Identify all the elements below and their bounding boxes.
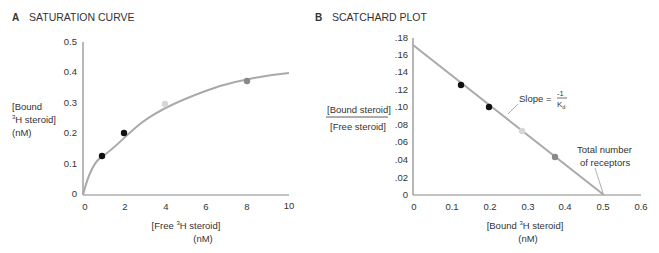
svg-text:[Bound: [Bound xyxy=(12,101,42,112)
saturation-x-ticks: 0 2 4 6 8 10 xyxy=(82,200,294,212)
svg-text:0.3: 0.3 xyxy=(64,97,77,108)
scatchard-point-2 xyxy=(486,104,492,110)
svg-text:[Bound steroid]: [Bound steroid] xyxy=(327,104,391,115)
svg-text:of receptors: of receptors xyxy=(580,157,630,168)
scatchard-y-label: [Bound steroid] [Free steroid] xyxy=(326,104,391,132)
svg-text:-1: -1 xyxy=(557,89,564,98)
saturation-point-4 xyxy=(244,78,250,84)
svg-text:0.4: 0.4 xyxy=(558,201,571,212)
svg-text:0.4: 0.4 xyxy=(64,66,77,77)
panel-a-title: SATURATION CURVE xyxy=(29,11,135,23)
svg-text:0.2: 0.2 xyxy=(64,127,77,138)
panel-b-title: SCATCHARD PLOT xyxy=(332,11,427,23)
svg-text:.14: .14 xyxy=(395,66,408,77)
svg-text:(nM): (nM) xyxy=(193,233,213,244)
svg-text:10: 10 xyxy=(284,200,295,211)
svg-text:.18: .18 xyxy=(395,32,408,43)
scatchard-y-ticks: 0 .02 .04 .06 .08 .10 .12 .14 .16 .18 xyxy=(395,32,408,200)
panel-a-letter: A xyxy=(12,12,19,23)
svg-text:[Bound 3H steroid]: [Bound 3H steroid] xyxy=(487,220,564,231)
svg-text:Kd: Kd xyxy=(557,100,565,110)
panel-b-letter: B xyxy=(315,12,322,23)
svg-text:.06: .06 xyxy=(395,136,408,147)
svg-text:0.1: 0.1 xyxy=(64,158,77,169)
svg-text:.02: .02 xyxy=(395,172,408,183)
scatchard-point-1 xyxy=(458,82,464,88)
slope-annotation: Slope = -1 Kd xyxy=(508,89,567,114)
svg-text:0: 0 xyxy=(411,201,416,212)
scatchard-x-ticks: 0 0.1 0.2 0.3 0.4 0.5 0.6 xyxy=(411,201,647,212)
svg-text:.12: .12 xyxy=(395,84,408,95)
svg-text:0.2: 0.2 xyxy=(483,201,496,212)
saturation-point-1 xyxy=(99,153,105,159)
svg-text:Slope =: Slope = xyxy=(519,93,552,104)
scatchard-point-3 xyxy=(519,128,525,134)
svg-text:0.6: 0.6 xyxy=(634,201,647,212)
svg-text:2: 2 xyxy=(122,201,127,212)
svg-text:8: 8 xyxy=(244,201,249,212)
saturation-y-label: [Bound 3H steroid] (nM) xyxy=(12,101,56,138)
svg-text:Total number: Total number xyxy=(577,144,632,155)
svg-text:4: 4 xyxy=(163,201,168,212)
svg-text:.04: .04 xyxy=(395,154,408,165)
total-receptors-annotation: Total number of receptors xyxy=(577,144,632,193)
svg-text:3H steroid]: 3H steroid] xyxy=(12,114,56,125)
svg-text:(nM): (nM) xyxy=(518,233,538,244)
svg-text:6: 6 xyxy=(203,201,208,212)
scatchard-line xyxy=(413,45,604,195)
saturation-x-label: [Free 3H steroid] (nM) xyxy=(152,220,221,244)
svg-text:.10: .10 xyxy=(395,101,408,112)
svg-text:0.5: 0.5 xyxy=(596,201,609,212)
scatchard-x-label: [Bound 3H steroid] (nM) xyxy=(487,220,564,244)
svg-text:0.1: 0.1 xyxy=(445,201,458,212)
svg-text:.08: .08 xyxy=(395,119,408,130)
saturation-y-ticks: 0 0.1 0.2 0.3 0.4 0.5 xyxy=(64,36,77,199)
saturation-curve xyxy=(83,73,289,195)
svg-text:0: 0 xyxy=(82,201,87,212)
svg-text:[Free steroid]: [Free steroid] xyxy=(330,121,386,132)
svg-text:0.3: 0.3 xyxy=(521,201,534,212)
figure: A SATURATION CURVE 0 0.1 0.2 0.3 0.4 0.5… xyxy=(0,0,659,253)
svg-text:0: 0 xyxy=(403,189,408,200)
scatchard-point-4 xyxy=(552,154,558,160)
svg-text:[Free 3H steroid]: [Free 3H steroid] xyxy=(152,220,221,231)
svg-text:0.5: 0.5 xyxy=(64,36,77,47)
saturation-point-3 xyxy=(162,101,168,107)
svg-text:0: 0 xyxy=(72,188,77,199)
svg-text:.16: .16 xyxy=(395,49,408,60)
saturation-point-2 xyxy=(121,130,127,136)
svg-text:(nM): (nM) xyxy=(12,127,32,138)
